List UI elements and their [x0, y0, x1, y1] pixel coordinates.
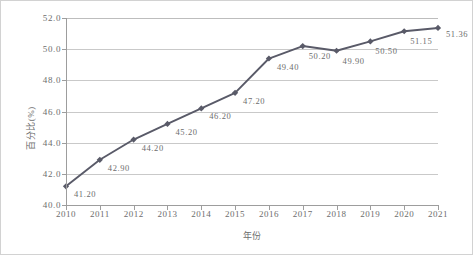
- data-point-label: 44.20: [142, 143, 164, 153]
- x-axis-tick-label: 2015: [225, 209, 245, 219]
- line-chart: 百分比(%) 40.042.044.046.048.050.052.0 41.2…: [0, 0, 473, 255]
- x-axis-title: 年份: [66, 229, 438, 242]
- data-point-marker: [435, 25, 441, 31]
- y-axis-line: [66, 18, 67, 206]
- x-axis-tick-labels: 2010201120122013201420152016201720182019…: [66, 209, 438, 225]
- data-point-label: 50.20: [309, 51, 331, 61]
- data-point-label: 49.40: [277, 62, 299, 72]
- y-axis-tick-label: 44.0: [43, 138, 61, 148]
- y-axis-tick-label: 46.0: [43, 107, 61, 117]
- data-point-marker: [401, 28, 407, 34]
- data-point-label: 47.20: [243, 96, 265, 106]
- data-point-marker: [367, 38, 373, 44]
- x-axis-tick-label: 2020: [394, 209, 414, 219]
- y-axis-tick-labels: 40.042.044.046.048.050.052.0: [1, 18, 61, 205]
- x-axis-tick-label: 2021: [428, 209, 448, 219]
- data-point-label: 51.36: [446, 29, 468, 39]
- y-axis-tick-label: 42.0: [43, 169, 61, 179]
- data-point-marker: [333, 48, 339, 54]
- y-axis-tick-label: 50.0: [43, 44, 61, 54]
- data-point-marker: [198, 105, 204, 111]
- data-point-label: 41.20: [74, 189, 96, 199]
- data-point-label: 51.15: [410, 36, 432, 46]
- x-axis-tick-label: 2010: [56, 209, 76, 219]
- x-axis-tick-label: 2018: [327, 209, 347, 219]
- y-axis-tick-label: 52.0: [43, 13, 61, 23]
- data-point-label: 49.90: [343, 56, 365, 66]
- data-point-label: 42.90: [108, 163, 130, 173]
- x-axis-tick-label: 2017: [293, 209, 313, 219]
- data-point-label: 45.20: [175, 127, 197, 137]
- x-axis-tick-label: 2011: [90, 209, 110, 219]
- x-axis-tick-label: 2012: [124, 209, 144, 219]
- x-axis-tick-label: 2013: [157, 209, 177, 219]
- data-point-label: 46.20: [209, 111, 231, 121]
- data-point-marker: [164, 121, 170, 127]
- x-axis-tick-label: 2014: [191, 209, 211, 219]
- data-point-marker: [300, 43, 306, 49]
- plot-area: 41.2042.9044.2045.2046.2047.2049.4050.20…: [66, 18, 438, 205]
- x-axis-line: [66, 205, 439, 206]
- y-axis-tick-label: 48.0: [43, 75, 61, 85]
- x-axis-tick-label: 2016: [259, 209, 279, 219]
- x-axis-tick-label: 2019: [360, 209, 380, 219]
- data-point-label: 50.50: [375, 46, 397, 56]
